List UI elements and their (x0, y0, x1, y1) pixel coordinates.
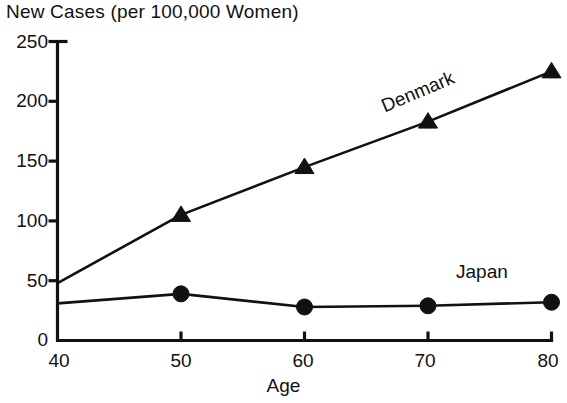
chart-container: New Cases (per 100,000 Women) 250 200 15… (0, 0, 567, 403)
axes-group (49, 42, 552, 341)
marker-denmark-80 (542, 62, 561, 77)
marker-japan-80 (544, 294, 560, 310)
series-line-denmark (58, 71, 552, 283)
marker-denmark-70 (419, 113, 438, 128)
plot-area (0, 0, 567, 403)
marker-japan-70 (420, 298, 436, 314)
marker-japan-60 (297, 299, 313, 315)
series-group (58, 62, 562, 315)
marker-japan-50 (173, 286, 189, 302)
axis-spine (58, 42, 552, 341)
